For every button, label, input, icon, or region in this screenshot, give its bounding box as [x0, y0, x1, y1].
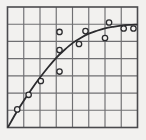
data-point-marker	[57, 47, 62, 52]
data-point-marker	[57, 69, 62, 74]
data-point-marker	[26, 92, 31, 97]
scatter-plot-svg	[0, 0, 146, 140]
chart-figure	[0, 0, 146, 140]
data-point-marker	[121, 26, 126, 31]
data-point-marker	[38, 78, 43, 83]
data-point-marker	[106, 20, 111, 25]
data-point-marker	[76, 41, 81, 46]
data-point-marker	[57, 29, 62, 34]
data-point-marker	[83, 28, 88, 33]
data-point-marker	[102, 35, 107, 40]
data-point-marker	[131, 26, 136, 31]
data-point-marker	[15, 107, 20, 112]
